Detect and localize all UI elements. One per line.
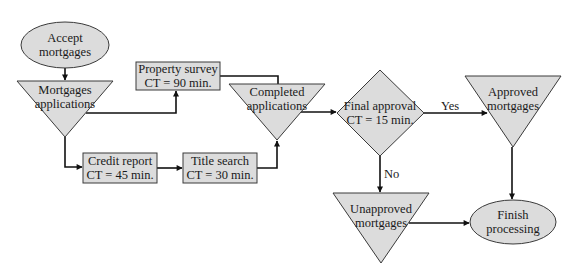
edge-applications-to-credit-report <box>65 137 82 167</box>
unapproved-mortgages-line1: Unapproved <box>350 202 412 216</box>
mortgages-applications-label: Mortgages applications <box>35 83 95 111</box>
final-approval-line1: Final approval <box>344 99 417 113</box>
title-search-line2: CT = 30 min. <box>186 168 253 182</box>
unapproved-mortgages-label: Unapproved mortgages <box>350 202 412 230</box>
final-approval-label: Final approval CT = 15 min. <box>344 99 417 127</box>
accept-mortgages-line2: mortgages <box>39 45 91 59</box>
property-survey-line2: CT = 90 min. <box>138 76 218 90</box>
finish-processing-label: Finish processing <box>486 208 539 236</box>
completed-applications-label: Completed applications <box>247 85 307 113</box>
edge-property-survey-to-completed <box>220 76 278 84</box>
no-edge-label: No <box>384 167 399 181</box>
mortgages-applications-line2: applications <box>35 97 95 111</box>
approved-mortgages-line2: mortgages <box>487 99 539 113</box>
approved-mortgages-line1: Approved <box>487 85 539 99</box>
credit-report-line2: CT = 45 min. <box>86 168 153 182</box>
final-approval-line2: CT = 15 min. <box>344 113 417 127</box>
property-survey-label: Property survey CT = 90 min. <box>138 62 218 90</box>
finish-processing-line1: Finish <box>486 208 539 222</box>
title-search-label: Title search CT = 30 min. <box>186 154 253 182</box>
completed-applications-line1: Completed <box>247 85 307 99</box>
unapproved-mortgages-line2: mortgages <box>350 216 412 230</box>
accept-mortgages-label: Accept mortgages <box>39 31 91 59</box>
accept-mortgages-line1: Accept <box>39 31 91 45</box>
approved-mortgages-label: Approved mortgages <box>487 85 539 113</box>
nodes <box>17 22 561 263</box>
completed-applications-line2: applications <box>247 99 307 113</box>
credit-report-label: Credit report CT = 45 min. <box>86 154 153 182</box>
title-search-line1: Title search <box>186 154 253 168</box>
property-survey-line1: Property survey <box>138 62 218 76</box>
edge-title-search-to-completed <box>257 141 277 168</box>
credit-report-line1: Credit report <box>86 154 153 168</box>
finish-processing-line2: processing <box>486 222 539 236</box>
yes-edge-label: Yes <box>441 99 459 113</box>
mortgages-applications-line1: Mortgages <box>35 83 95 97</box>
